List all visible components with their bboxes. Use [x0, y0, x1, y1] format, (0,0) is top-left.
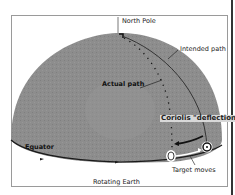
label-target-moves: Target moves [172, 167, 216, 174]
target-original-icon [166, 150, 176, 162]
label-actual-path: Actual path [102, 81, 144, 88]
label-north-pole: North Pole [122, 18, 156, 25]
label-intended-path: Intended path [180, 46, 226, 53]
label-equator: Equator [25, 144, 54, 151]
target-moved-icon [202, 142, 213, 153]
label-rotating-earth: Rotating Earth [93, 179, 140, 186]
label-coriolis-deflection: Coriolis "deflection" [160, 115, 235, 122]
